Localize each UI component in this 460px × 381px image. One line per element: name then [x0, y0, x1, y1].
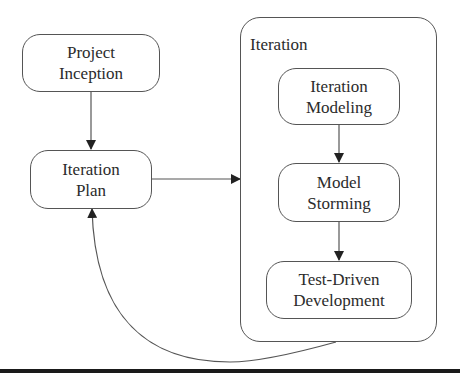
node-label-line2: Plan: [76, 180, 106, 201]
node-project-inception: Project Inception: [22, 34, 160, 92]
bottom-rule: [0, 369, 460, 373]
node-label-line2: Inception: [59, 63, 123, 84]
node-label-line2: Development: [293, 290, 385, 311]
node-label-line1: Project: [67, 42, 115, 63]
node-label-line2: Storming: [307, 193, 370, 214]
node-label-line1: Test-Driven: [299, 269, 380, 290]
node-test-driven-development: Test-Driven Development: [266, 261, 412, 319]
node-iteration-plan: Iteration Plan: [30, 150, 152, 209]
iteration-container-label: Iteration: [250, 35, 308, 55]
node-model-storming: Model Storming: [278, 163, 400, 222]
node-label-line1: Iteration: [310, 76, 368, 97]
node-iteration-modeling: Iteration Modeling: [278, 68, 400, 125]
node-label-line1: Iteration: [62, 159, 120, 180]
node-label-line1: Model: [317, 172, 361, 193]
node-label-line2: Modeling: [306, 97, 372, 118]
